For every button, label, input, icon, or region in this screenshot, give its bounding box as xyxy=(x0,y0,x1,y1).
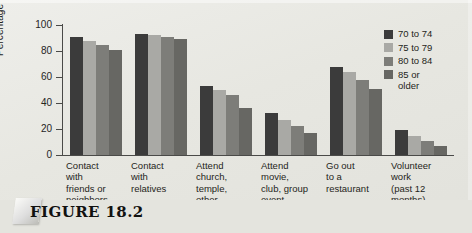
figure-caption: FIGURE 18.2 xyxy=(30,203,144,221)
x-axis-category-label: Contact with relatives xyxy=(131,160,193,194)
x-axis-line xyxy=(62,155,454,156)
bar xyxy=(226,95,239,155)
y-axis-tick-label: 20 xyxy=(12,124,52,134)
x-axis-category-label: Attend church, temple, other xyxy=(196,160,258,206)
bar xyxy=(70,37,83,155)
y-axis-tick-label: 40 xyxy=(12,98,52,108)
x-axis-category-label: Contact with friends or neighbors xyxy=(66,160,128,206)
bar xyxy=(239,108,252,155)
y-axis-tick-label: 100 xyxy=(12,20,52,30)
bar xyxy=(200,86,213,155)
legend-item: 75 to 79 xyxy=(384,42,470,53)
bar xyxy=(83,41,96,155)
legend-swatch xyxy=(384,57,393,66)
bar xyxy=(421,141,434,155)
bar xyxy=(213,90,226,155)
legend-item: 85 or older xyxy=(384,69,470,91)
bar xyxy=(369,89,382,155)
legend-swatch xyxy=(384,70,393,79)
bar xyxy=(278,120,291,155)
bar xyxy=(135,34,148,155)
bar-group xyxy=(330,25,382,155)
legend-item: 80 to 84 xyxy=(384,55,470,66)
bar xyxy=(408,136,421,156)
y-axis-tick-label: 60 xyxy=(12,72,52,82)
x-axis-category-label: Volunteer work (past 12 months) xyxy=(391,160,453,206)
bar xyxy=(291,126,304,155)
figure-container: Percentage 020406080100 Contact with fri… xyxy=(0,0,472,233)
x-axis-category-label: Go out to a restaurant xyxy=(326,160,388,194)
chart-legend: 70 to 7475 to 7980 to 8485 or older xyxy=(384,28,470,93)
legend-label: 85 or older xyxy=(398,69,420,91)
bar xyxy=(109,50,122,155)
bar xyxy=(395,130,408,155)
bar xyxy=(265,113,278,155)
legend-label: 70 to 74 xyxy=(398,28,432,39)
y-axis-title: Percentage xyxy=(0,4,5,56)
x-axis-category-label: Attend movie, club, group event xyxy=(261,160,323,206)
chart-canvas: Percentage 020406080100 Contact with fri… xyxy=(0,0,472,233)
bar xyxy=(356,80,369,155)
legend-item: 70 to 74 xyxy=(384,28,470,39)
legend-swatch xyxy=(384,43,393,52)
bar xyxy=(174,39,187,155)
legend-label: 75 to 79 xyxy=(398,42,432,53)
bar xyxy=(304,133,317,155)
bar xyxy=(161,37,174,155)
bar-group xyxy=(70,25,122,155)
bar xyxy=(148,35,161,155)
y-axis-tick-label: 80 xyxy=(12,46,52,56)
bar-group xyxy=(135,25,187,155)
legend-swatch xyxy=(384,30,393,39)
legend-label: 80 to 84 xyxy=(398,55,432,66)
y-axis-tick-label: 0 xyxy=(12,150,52,160)
bar xyxy=(343,72,356,155)
bar xyxy=(96,45,109,156)
bar-group xyxy=(265,25,317,155)
bar xyxy=(434,146,447,155)
bar xyxy=(330,67,343,155)
bar-group xyxy=(200,25,252,155)
